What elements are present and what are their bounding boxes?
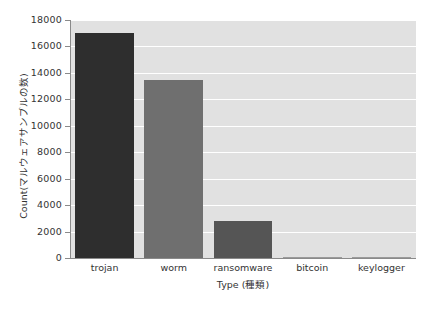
bar-worm[interactable]	[144, 80, 203, 259]
bar-trojan[interactable]	[75, 33, 134, 258]
bar-slot	[347, 20, 416, 258]
x-tick-label-ransomware: ransomware	[208, 262, 277, 273]
y-tick-label: 4000	[37, 199, 62, 210]
y-tick-mark	[65, 179, 70, 180]
x-tick-label-bitcoin: bitcoin	[278, 262, 347, 273]
x-axis-tick-labels: trojanwormransomwarebitcoinkeylogger	[70, 262, 416, 273]
y-axis-line	[70, 20, 71, 258]
y-tick-mark	[65, 126, 70, 127]
y-tick-label: 18000	[31, 14, 62, 25]
bar-slot	[208, 20, 277, 258]
bar-slot	[278, 20, 347, 258]
y-tick-mark	[65, 205, 70, 206]
y-tick-label: 16000	[31, 40, 62, 51]
bar-series	[70, 20, 416, 258]
x-tick-label-trojan: trojan	[70, 262, 139, 273]
y-tick-label: 10000	[31, 120, 62, 131]
y-tick-mark	[65, 258, 70, 259]
y-tick-label: 8000	[37, 146, 62, 157]
x-axis-line	[70, 258, 416, 259]
x-axis-title: Type (種類)	[70, 277, 416, 291]
y-tick-mark	[65, 46, 70, 47]
y-tick-mark	[65, 232, 70, 233]
y-tick-mark	[65, 152, 70, 153]
bar-ransomware[interactable]	[214, 221, 273, 258]
y-tick-label: 12000	[31, 93, 62, 104]
plot-area	[70, 20, 416, 258]
y-tick-label: 6000	[37, 173, 62, 184]
bar-slot	[70, 20, 139, 258]
bar-slot	[139, 20, 208, 258]
y-tick-label: 14000	[31, 67, 62, 78]
x-tick-label-worm: worm	[139, 262, 208, 273]
y-tick-label: 2000	[37, 226, 62, 237]
bar-chart: 1800016000140001200010000800060004000200…	[0, 0, 428, 315]
y-tick-mark	[65, 99, 70, 100]
y-tick-mark	[65, 73, 70, 74]
y-tick-mark	[65, 20, 70, 21]
y-tick-label: 0	[56, 252, 62, 263]
y-axis-title: Count(マルウェアサンプルの数)	[16, 27, 30, 265]
x-tick-label-keylogger: keylogger	[347, 262, 416, 273]
